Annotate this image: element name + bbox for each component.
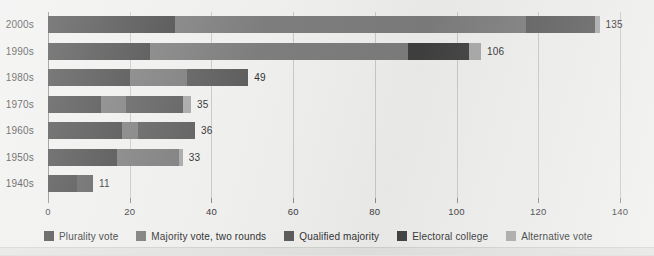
x-axis-tick-label: 120: [530, 206, 546, 217]
bar-row: 106: [48, 39, 620, 65]
bar-segment: [408, 43, 469, 60]
x-axis-tick-label: 40: [206, 206, 217, 217]
legend-item[interactable]: Qualified majority: [284, 231, 379, 242]
category-label: 1950s: [6, 149, 34, 166]
x-axis-tick: [48, 198, 49, 203]
bar-row: 33: [48, 145, 620, 171]
bar-row: 11: [48, 171, 620, 197]
bar-segment: [150, 43, 407, 60]
bar-row: 135: [48, 12, 620, 38]
legend-item[interactable]: Electoral college: [397, 231, 488, 242]
bar-segment: [469, 43, 481, 60]
x-axis-tick: [293, 198, 294, 203]
x-axis-tick-label: 0: [45, 206, 50, 217]
x-axis-tick: [211, 198, 212, 203]
category-label: 1940s: [6, 175, 34, 192]
legend-label: Plurality vote: [59, 231, 118, 242]
bar-row: 35: [48, 92, 620, 118]
legend-item[interactable]: Majority vote, two rounds: [136, 231, 266, 242]
bar-segment: [48, 43, 150, 60]
category-label: 2000s: [6, 16, 34, 33]
bar-value-label: 49: [254, 69, 266, 86]
legend-label: Majority vote, two rounds: [151, 231, 266, 242]
bar-segment: [526, 16, 595, 33]
bar-segment: [101, 96, 126, 113]
category-label: 1980s: [6, 69, 34, 86]
category-label: 1990s: [6, 43, 34, 60]
bar-segment: [138, 122, 195, 139]
bar-segment: [117, 149, 178, 166]
bar-segment: [595, 16, 599, 33]
bar-segment: [77, 175, 93, 192]
page-bottom-edge: [0, 247, 654, 256]
x-axis-tick-label: 80: [369, 206, 380, 217]
x-axis-tick: [375, 198, 376, 203]
bar-segment: [48, 149, 117, 166]
bar-value-label: 135: [606, 16, 623, 33]
bar-value-label: 35: [197, 96, 209, 113]
bar-segment: [48, 96, 101, 113]
category-label: 1970s: [6, 96, 34, 113]
stacked-bar: [48, 122, 195, 139]
bar-segment: [130, 69, 187, 86]
category-label: 1960s: [6, 122, 34, 139]
bar-value-label: 33: [189, 149, 201, 166]
legend-label: Electoral college: [412, 231, 488, 242]
stacked-bar: [48, 16, 600, 33]
legend-label: Qualified majority: [299, 231, 379, 242]
x-axis-tick: [130, 198, 131, 203]
legend-item[interactable]: Plurality vote: [44, 231, 118, 242]
x-axis-tick-label: 140: [612, 206, 628, 217]
x-axis-tick: [538, 198, 539, 203]
bar-segment: [187, 69, 248, 86]
bar-value-label: 11: [99, 175, 110, 192]
stacked-bar: [48, 43, 481, 60]
legend-swatch-icon: [284, 231, 294, 241]
bar-segment: [48, 122, 122, 139]
bar-row: 49: [48, 65, 620, 91]
chart-legend: Plurality voteMajority vote, two roundsQ…: [44, 228, 644, 244]
bar-segment: [126, 96, 183, 113]
bar-segment: [48, 69, 130, 86]
bar-segment: [183, 96, 191, 113]
stacked-bar: [48, 69, 248, 86]
stacked-bar: [48, 149, 183, 166]
bar-value-label: 106: [487, 43, 504, 60]
stacked-bar: [48, 96, 191, 113]
bar-segment: [48, 175, 77, 192]
legend-item[interactable]: Alternative vote: [506, 231, 592, 242]
bar-segment: [122, 122, 138, 139]
x-axis-tick-label: 20: [124, 206, 135, 217]
x-gridline: [620, 12, 621, 198]
category-axis: 2000s1990s1980s1970s1960s1950s1940s: [0, 12, 42, 198]
bar-row: 36: [48, 118, 620, 144]
legend-swatch-icon: [506, 231, 516, 241]
bar-value-label: 36: [201, 122, 213, 139]
legend-label: Alternative vote: [521, 231, 592, 242]
plot-area: 0204060801001201401351064935363311: [48, 12, 620, 198]
x-axis-tick-label: 100: [448, 206, 464, 217]
x-axis-tick: [620, 198, 621, 203]
x-axis-tick: [457, 198, 458, 203]
bar-segment: [48, 16, 175, 33]
bar-segment: [175, 16, 526, 33]
legend-swatch-icon: [397, 231, 407, 241]
stacked-bar: [48, 175, 93, 192]
legend-swatch-icon: [136, 231, 146, 241]
bar-segment: [179, 149, 183, 166]
legend-swatch-icon: [44, 231, 54, 241]
x-axis-tick-label: 60: [288, 206, 299, 217]
